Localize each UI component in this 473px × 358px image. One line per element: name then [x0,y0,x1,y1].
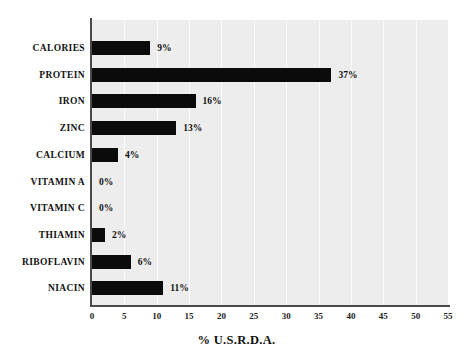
bar-row: VITAMIN C0% [0,198,473,218]
bar-value-label: 16% [203,91,222,111]
x-tick-label: 25 [242,309,266,323]
category-label: RIBOFLAVIN [0,252,85,272]
category-label: CALCIUM [0,145,85,165]
bar-value-label: 13% [183,118,202,138]
category-label: NIACIN [0,278,85,298]
bar-value-label: 11% [170,278,188,298]
bar-row: RIBOFLAVIN6% [0,252,473,272]
category-label: ZINC [0,118,85,138]
bar-value-label: 0% [99,172,113,192]
bar-value-label: 9% [157,38,171,58]
category-label: VITAMIN C [0,198,85,218]
bar [92,148,118,162]
bar-value-label: 2% [112,225,126,245]
x-tick-label: 15 [177,309,201,323]
x-tick-label: 10 [145,309,169,323]
bar-value-label: 0% [99,198,113,218]
bar [92,255,131,269]
bar-value-label: 4% [125,145,139,165]
category-label: PROTEIN [0,65,85,85]
bar-chart: CALORIES9%PROTEIN37%IRON16%ZINC13%CALCIU… [0,0,473,358]
x-tick-label: 5 [112,309,136,323]
bar [92,94,196,108]
bar [92,68,331,82]
bar [92,41,150,55]
bar [92,228,105,242]
bar-row: VITAMIN A0% [0,172,473,192]
bar [92,121,176,135]
category-label: IRON [0,91,85,111]
category-label: VITAMIN A [0,172,85,192]
x-tick-label: 45 [371,309,395,323]
x-tick-label: 55 [436,309,460,323]
bar-row: ZINC13% [0,118,473,138]
category-label: CALORIES [0,38,85,58]
bar-row: CALCIUM4% [0,145,473,165]
bar-row: PROTEIN37% [0,65,473,85]
bar [92,281,163,295]
x-axis-line [90,305,450,307]
bar-row: CALORIES9% [0,38,473,58]
x-tick-label: 35 [307,309,331,323]
bar-value-label: 37% [338,65,357,85]
x-tick-label: 0 [80,309,104,323]
x-tick-label: 40 [339,309,363,323]
x-tick-label: 50 [404,309,428,323]
x-tick-label: 20 [209,309,233,323]
bar-value-label: 6% [138,252,152,272]
bar-row: IRON16% [0,91,473,111]
x-axis-title: % U.S.R.D.A. [0,333,473,348]
bar-row: NIACIN11% [0,278,473,298]
bar-row: THIAMIN2% [0,225,473,245]
category-label: THIAMIN [0,225,85,245]
x-tick-label: 30 [274,309,298,323]
